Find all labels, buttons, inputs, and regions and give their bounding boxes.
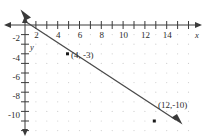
- y-axis: [21, 16, 29, 136]
- y-tick-label-minus-2: -2: [13, 33, 21, 43]
- graph-canvas: 2 4 6 8 10 12 14 -2 -4 -6 -8 -10 x y (4,…: [0, 0, 215, 140]
- x-tick-label-10: 10: [119, 30, 129, 40]
- line-lower-right-arrow: [172, 114, 183, 125]
- point-marker-b: [153, 120, 156, 123]
- x-tick-label-6: 6: [78, 30, 83, 40]
- point-label-b: (12,-10): [158, 100, 187, 110]
- x-tick-label-8: 8: [100, 30, 105, 40]
- x-tick-label-12: 12: [141, 30, 150, 40]
- x-axis-right-arrow: [195, 22, 202, 28]
- y-axis-down-arrow: [22, 129, 28, 136]
- y-axis-name-label: y: [29, 42, 34, 52]
- point-marker-a: [66, 52, 69, 55]
- y-tick-label-minus-4: -4: [13, 53, 21, 63]
- x-axis-left-arrow: [4, 22, 11, 28]
- coordinate-graph-figure: 2 4 6 8 10 12 14 -2 -4 -6 -8 -10 x y (4,…: [0, 0, 215, 140]
- grid-dots: [35, 34, 189, 131]
- x-tick-label-2: 2: [34, 30, 39, 40]
- line-upper-left-arrow: [21, 10, 32, 21]
- y-tick-label-minus-6: -6: [13, 72, 21, 82]
- x-axis-name-label: x: [194, 30, 199, 40]
- x-tick-label-4: 4: [56, 30, 61, 40]
- y-tick-label-minus-10: -10: [8, 110, 20, 120]
- x-axis: [4, 21, 202, 29]
- point-annotations: (4, -3) (12,-10): [71, 50, 187, 111]
- point-label-a: (4, -3): [71, 50, 94, 60]
- x-tick-label-14: 14: [163, 30, 173, 40]
- y-tick-label-minus-8: -8: [13, 91, 21, 101]
